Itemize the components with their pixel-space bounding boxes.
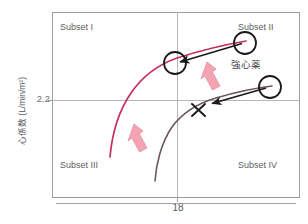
plot-canvas xyxy=(0,0,308,224)
chart-figure: 心係数 (L/min/m²) 2.2 18 Subset I Subset II… xyxy=(0,0,308,224)
black-arrow-upper xyxy=(180,44,242,63)
x-marker xyxy=(192,104,205,116)
pink-arrow-lower xyxy=(128,124,147,152)
black-arrow-lower xyxy=(212,88,266,104)
pink-arrow-upper xyxy=(201,62,220,90)
plot-frame xyxy=(53,13,300,198)
circle-marker-upper-left xyxy=(164,52,186,74)
